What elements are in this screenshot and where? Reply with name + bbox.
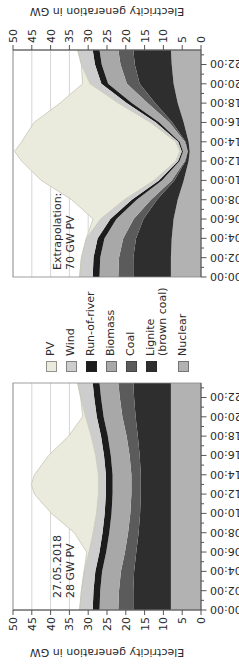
value-tick-label: 0 [195, 617, 208, 624]
value-tick-label: 45 [26, 617, 39, 631]
time-tick-label: 00:00 [210, 603, 239, 616]
value-tick-label: 40 [45, 617, 58, 631]
time-tick-label: 22:00 [210, 390, 239, 403]
value-tick-label: 25 [101, 29, 114, 43]
subplot-left: 0510152025303540455000:0002:0004:0006:00… [7, 383, 239, 631]
value-tick-label: 5 [176, 36, 189, 43]
time-tick-label: 02:00 [210, 584, 239, 597]
value-tick-label: 50 [7, 617, 20, 631]
time-tick-label: 12:00 [210, 487, 239, 500]
legend-item: Run-of-river [85, 280, 97, 372]
time-tick-label: 10:00 [210, 173, 239, 186]
legend: PVWindRun-of-riverBiomassCoalLignite (br… [45, 280, 197, 372]
y-axis-title-left: Electricity generation in GW [30, 646, 184, 659]
legend-item-label: Run-of-river [85, 291, 97, 356]
time-tick-label: 16:00 [210, 115, 239, 128]
annotation-right: Extrapolation: 70 GW PV [51, 193, 77, 270]
value-tick-label: 10 [157, 29, 170, 43]
legend-item: PV [45, 280, 57, 372]
legend-color-swatch [126, 361, 137, 372]
legend-item-label: Coal [125, 332, 137, 356]
legend-item: Coal [125, 280, 137, 372]
legend-item-label: Nuclear [177, 314, 189, 356]
value-tick-label: 5 [176, 617, 189, 624]
time-tick-label: 08:00 [210, 193, 239, 206]
value-tick-label: 40 [45, 29, 58, 43]
legend-color-swatch [66, 361, 77, 372]
legend-color-swatch [146, 361, 157, 372]
value-tick-label: 30 [82, 617, 95, 631]
y-axis-title-right: Electricity generation in GW [30, 5, 184, 18]
legend-color-swatch [178, 361, 189, 372]
legend-item-label: PV [45, 342, 57, 356]
value-tick-label: 50 [7, 29, 20, 43]
annotation-right-line2: 70 GW PV [64, 193, 77, 270]
value-tick-label: 10 [157, 617, 170, 631]
time-tick-label: 20:00 [210, 410, 239, 423]
value-tick-label: 20 [120, 617, 133, 631]
time-tick-label: 20:00 [210, 77, 239, 90]
annotation-right-line1: Extrapolation: [51, 193, 64, 270]
time-tick-label: 12:00 [210, 154, 239, 167]
time-tick-label: 04:00 [210, 564, 239, 577]
value-tick-label: 20 [120, 29, 133, 43]
value-tick-label: 15 [139, 617, 152, 631]
screenshot-root: { "figure": { "ylabel": "Electricity gen… [0, 0, 239, 671]
value-tick-label: 0 [195, 36, 208, 43]
time-tick-label: 02:00 [210, 251, 239, 264]
value-tick-label: 25 [101, 617, 114, 631]
legend-item-label: Biomass [105, 310, 117, 356]
time-tick-label: 18:00 [210, 96, 239, 109]
legend-color-swatch [46, 361, 57, 372]
time-tick-label: 16:00 [210, 448, 239, 461]
value-tick-label: 30 [82, 29, 95, 43]
legend-color-swatch [86, 361, 97, 372]
legend-item: Nuclear [177, 280, 189, 372]
legend-color-swatch [106, 361, 117, 372]
time-tick-label: 14:00 [210, 135, 239, 148]
time-tick-label: 08:00 [210, 526, 239, 539]
annotation-left: 27.05.2018 28 GW PV [51, 535, 77, 598]
value-tick-label: 15 [139, 29, 152, 43]
legend-item: Wind [65, 280, 77, 372]
subplot-right: 0510152025303540455000:0002:0004:0006:00… [7, 29, 239, 283]
time-tick-label: 00:00 [210, 270, 239, 283]
value-tick-label: 35 [63, 29, 76, 43]
legend-item: Lignite (brown coal) [145, 280, 169, 372]
time-tick-label: 22:00 [210, 57, 239, 70]
time-tick-label: 18:00 [210, 429, 239, 442]
rotated-figure: 0510152025303540455000:0002:0004:0006:00… [0, 0, 239, 671]
time-tick-label: 10:00 [210, 506, 239, 519]
legend-item-label: Lignite (brown coal) [145, 287, 169, 356]
time-tick-label: 06:00 [210, 212, 239, 225]
time-tick-label: 06:00 [210, 545, 239, 558]
annotation-left-line2: 28 GW PV [64, 535, 77, 598]
legend-item: Biomass [105, 280, 117, 372]
time-tick-label: 14:00 [210, 468, 239, 481]
value-tick-label: 45 [26, 29, 39, 43]
time-tick-label: 04:00 [210, 231, 239, 244]
annotation-left-line1: 27.05.2018 [51, 535, 64, 598]
legend-item-label: Wind [65, 328, 77, 356]
area-nuclear [171, 383, 201, 610]
value-tick-label: 35 [63, 617, 76, 631]
